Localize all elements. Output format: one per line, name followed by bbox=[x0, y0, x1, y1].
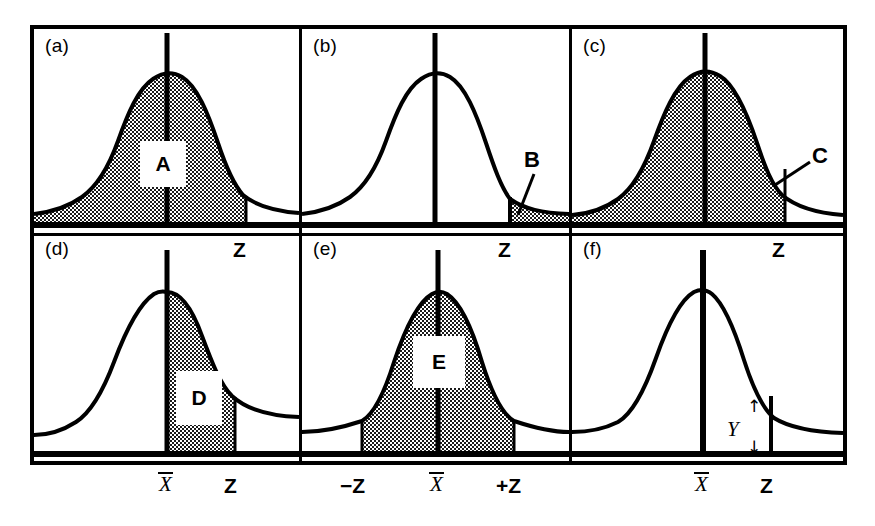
panel-b-plot bbox=[302, 29, 569, 233]
arrow-down-icon: ↓ bbox=[747, 439, 761, 456]
panel-e-tick-xbar-text: X bbox=[429, 472, 444, 495]
panel-a-tag: (a) bbox=[45, 35, 69, 57]
panel-c-shaded-area bbox=[572, 72, 785, 225]
panel-f-tick-xbar: X bbox=[694, 472, 709, 497]
panel-d-area-label: D bbox=[176, 371, 222, 425]
panel-c: (c) C Z bbox=[572, 29, 843, 233]
panel-f-height-label: Y bbox=[727, 417, 739, 442]
panel-d-tick-xbar-text: X bbox=[158, 472, 173, 495]
panel-f-height-arrows: ↑ ↓ bbox=[746, 398, 762, 456]
panel-c-leader-line bbox=[775, 162, 810, 185]
panel-f-curve bbox=[572, 290, 843, 433]
panel-a: (a) A Z bbox=[34, 29, 299, 233]
panel-d-tag: (d) bbox=[45, 238, 69, 260]
panel-b: (b) B Z bbox=[302, 29, 569, 233]
panel-c-area-label: C bbox=[812, 143, 828, 169]
panel-d-plot bbox=[34, 236, 299, 465]
panel-a-area-label: A bbox=[140, 141, 186, 187]
panel-b-area-label: B bbox=[524, 147, 540, 173]
panel-a-plot bbox=[34, 29, 299, 233]
panel-d: (d) D X Z bbox=[34, 236, 299, 465]
arrow-up-icon: ↑ bbox=[747, 398, 761, 415]
panel-c-tag: (c) bbox=[583, 35, 606, 57]
panel-e-tick-minus-z: −Z bbox=[340, 474, 365, 498]
panel-f-plot bbox=[572, 236, 843, 465]
panel-e-tick-plus-z: +Z bbox=[496, 474, 521, 498]
panel-d-tick-z: Z bbox=[224, 474, 237, 498]
panel-e: (e) E −Z X +Z bbox=[302, 236, 569, 465]
panel-f-tag: (f) bbox=[583, 238, 602, 260]
panel-f-tick-z: Z bbox=[760, 474, 773, 498]
panel-e-tick-xbar: X bbox=[429, 472, 444, 497]
panel-e-tag: (e) bbox=[313, 238, 337, 260]
panel-f: (f) Y ↑ ↓ X Z bbox=[572, 236, 843, 465]
panel-d-tick-xbar: X bbox=[158, 472, 173, 497]
panel-b-tag: (b) bbox=[313, 35, 337, 57]
panel-e-area-label: E bbox=[413, 336, 465, 388]
figure-frame: (a) A Z (b) B Z bbox=[30, 25, 847, 465]
panel-c-plot bbox=[572, 29, 843, 233]
normal-curve-figure: (a) A Z (b) B Z bbox=[0, 0, 875, 526]
panel-f-tick-xbar-text: X bbox=[694, 472, 709, 495]
